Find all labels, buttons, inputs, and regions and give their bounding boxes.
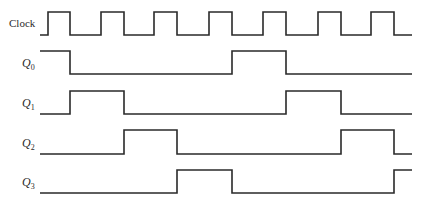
signal-q3: Q3 [22,170,412,193]
label-q3-subscript: 3 [31,182,35,191]
signal-q2: Q2 [22,130,412,154]
label-q1: Q1 [22,96,35,112]
label-q2-text: Q [22,136,31,150]
signal-q1: Q1 [22,91,412,114]
waveform-q2 [40,130,412,154]
label-q2: Q2 [22,136,35,152]
label-clock-text: Clock [9,17,36,29]
label-q3-text: Q [22,175,31,189]
label-q0-subscript: 0 [31,63,35,72]
waveform-q0 [40,51,412,74]
label-q3: Q3 [22,175,35,191]
waveform-q3 [40,170,412,193]
waveform-clock [40,12,412,35]
signal-clock: Clock [9,12,412,35]
label-q0-text: Q [22,56,31,70]
label-q0: Q0 [22,56,35,72]
label-q1-text: Q [22,96,31,110]
signal-q0: Q0 [22,51,412,74]
waveform-q1 [40,91,412,114]
label-clock: Clock [9,17,36,29]
label-q2-subscript: 2 [31,143,35,152]
label-q1-subscript: 1 [31,103,35,112]
timing-diagram: Clock Q0 Q1 Q2 Q3 [0,0,421,207]
